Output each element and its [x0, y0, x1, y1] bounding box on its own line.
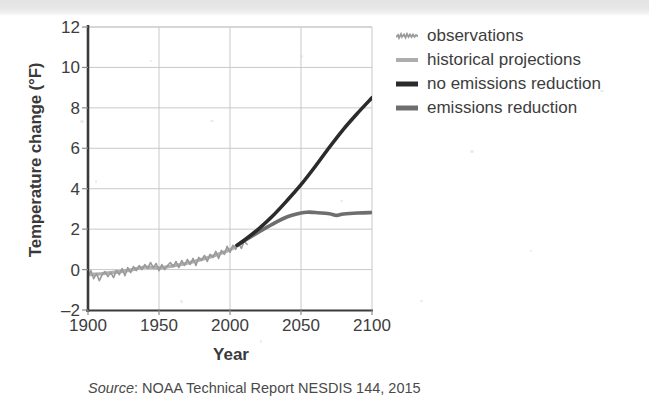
- source-caption: Source: NOAA Technical Report NESDIS 144…: [88, 380, 421, 396]
- x-tick-label: 2050: [271, 316, 331, 336]
- temperature-change-figure: 12 10 8 6 4 2 0 –2 1900 1950 2000 2050 2…: [0, 0, 649, 409]
- x-axis-title: Year: [88, 345, 374, 365]
- source-text: NOAA Technical Report NESDIS 144, 2015: [142, 380, 421, 396]
- series-line-no-emissions-reduction: [237, 98, 372, 246]
- legend-item-observations[interactable]: observations: [396, 24, 646, 48]
- scan-speck: [150, 60, 152, 62]
- scan-speck: [95, 180, 97, 183]
- scan-speck: [260, 340, 262, 343]
- scan-speck: [420, 300, 423, 302]
- scan-speck: [80, 120, 84, 123]
- legend-swatch-emissions-reduction: [396, 99, 418, 117]
- scan-speck: [600, 90, 604, 92]
- scan-speck: [470, 150, 474, 153]
- legend-swatch-observations: [396, 27, 418, 45]
- x-tick-label: 2100: [342, 316, 402, 336]
- legend-label: no emissions reduction: [427, 74, 601, 94]
- x-tick-label: 2000: [200, 316, 260, 336]
- series-line-observations: [88, 241, 247, 280]
- gridlines: [88, 27, 372, 310]
- series-line-historical-projections: [88, 245, 237, 274]
- legend-label: observations: [427, 26, 523, 46]
- legend-label: emissions reduction: [427, 98, 577, 118]
- scan-speck: [300, 55, 303, 58]
- scan-speck: [340, 200, 343, 202]
- legend-item-historical-projections[interactable]: historical projections: [396, 48, 646, 72]
- legend-label: historical projections: [427, 50, 581, 70]
- source-prefix: Source: [88, 380, 134, 396]
- chart-plot-area: 12 10 8 6 4 2 0 –2 1900 1950 2000 2050 2…: [0, 0, 400, 375]
- legend-swatch-no-emissions-reduction: [396, 75, 418, 93]
- legend-item-no-emissions-reduction[interactable]: no emissions reduction: [396, 72, 646, 96]
- x-tick-label: 1900: [58, 316, 118, 336]
- legend-swatch-historical-projections: [396, 51, 418, 69]
- legend-item-emissions-reduction[interactable]: emissions reduction: [396, 96, 646, 120]
- x-tick-label: 1950: [129, 316, 189, 336]
- source-separator: :: [134, 380, 142, 396]
- y-axis-title: Temperature change (°F): [26, 20, 46, 300]
- scan-speck: [530, 250, 532, 252]
- chart-legend: observations historical projections no e…: [396, 24, 646, 120]
- scan-speck: [210, 120, 214, 122]
- scan-speck: [180, 300, 183, 303]
